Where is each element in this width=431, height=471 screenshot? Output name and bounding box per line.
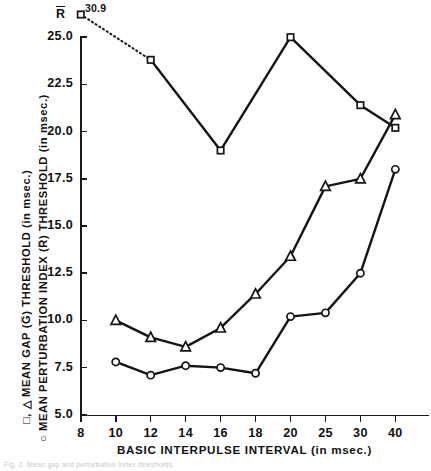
- square-marker: [287, 34, 293, 40]
- series-segment: [221, 368, 256, 374]
- square-marker: [78, 11, 84, 17]
- triangle-marker: [391, 109, 401, 118]
- circle-marker: [357, 270, 364, 277]
- circle-marker: [147, 372, 154, 379]
- series-segment: [360, 169, 395, 273]
- series-segment: [81, 15, 151, 60]
- series-segment: [360, 115, 395, 179]
- circle-marker: [252, 370, 259, 377]
- series-segment: [325, 273, 360, 313]
- series-segment: [186, 328, 221, 347]
- series-segment: [256, 256, 291, 294]
- series-segment: [186, 366, 221, 368]
- square-marker: [148, 57, 154, 63]
- circle-marker: [287, 313, 294, 320]
- series-segment: [291, 37, 361, 105]
- plot-series-layer: [0, 0, 431, 471]
- series-triangle: [111, 109, 400, 350]
- series-circle: [112, 166, 399, 379]
- triangle-marker: [111, 315, 121, 324]
- circle-marker: [217, 364, 224, 371]
- series-segment: [116, 362, 151, 375]
- series-segment: [151, 366, 186, 375]
- circle-marker: [182, 362, 189, 369]
- series-segment: [151, 60, 221, 151]
- figure-root: □, △ MEAN GAP (G̅) THRESHOLD (in msec.) …: [0, 0, 431, 471]
- figure-caption: Fig. 2. Mean gap and perturbation index …: [4, 461, 175, 468]
- triangle-marker: [181, 342, 191, 351]
- square-marker: [357, 102, 363, 108]
- x-axis-title: BASIC INTERPULSE INTERVAL (in msec.): [0, 443, 431, 456]
- series-square: [78, 11, 399, 153]
- square-marker: [217, 147, 223, 153]
- series-segment: [291, 313, 326, 317]
- series-segment: [221, 294, 256, 328]
- square-marker: [392, 125, 398, 131]
- series-segment: [116, 320, 151, 337]
- series-segment: [291, 186, 326, 256]
- series-segment: [256, 317, 291, 374]
- series-segment: [221, 37, 291, 150]
- triangle-marker: [286, 251, 296, 260]
- circle-marker: [112, 358, 119, 365]
- circle-marker: [322, 309, 329, 316]
- triangle-marker: [146, 332, 156, 341]
- triangle-marker: [321, 181, 331, 190]
- circle-marker: [392, 166, 399, 173]
